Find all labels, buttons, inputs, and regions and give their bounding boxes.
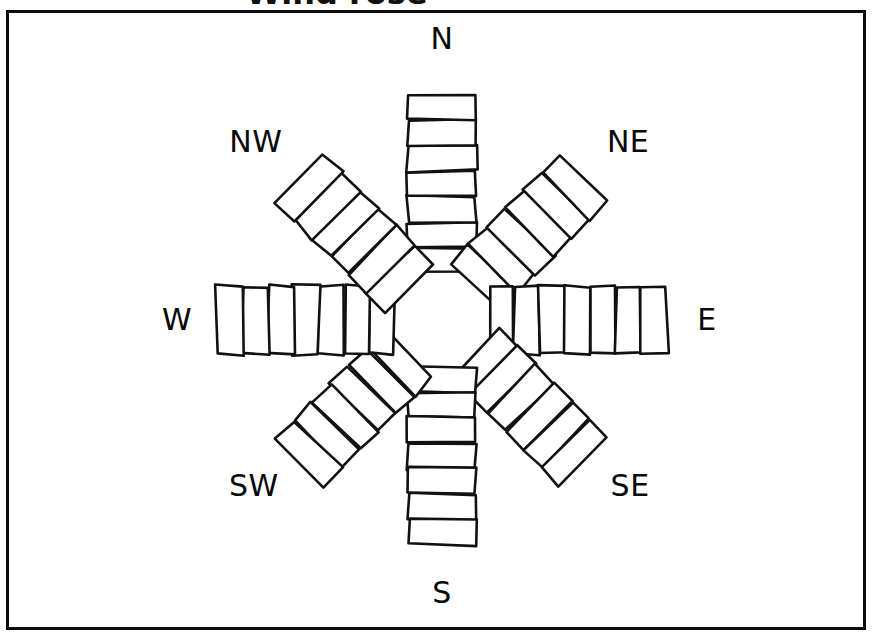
- petal-segment: [409, 519, 477, 547]
- direction-label-e: E: [697, 302, 716, 337]
- direction-label-ne: NE: [607, 124, 649, 159]
- petal-segment: [406, 145, 478, 172]
- petal-segment: [407, 119, 476, 146]
- petal-segment: [615, 287, 641, 353]
- petal-segment: [564, 285, 590, 354]
- direction-label-nw: NW: [229, 124, 282, 159]
- clipped-title-strip: Wind rose: [0, 0, 882, 9]
- petal-segment: [408, 467, 477, 494]
- page-title: Wind rose: [246, 0, 428, 9]
- direction-label-se: SE: [611, 468, 650, 503]
- petal-segment: [591, 286, 616, 354]
- direction-label-n: N: [431, 21, 454, 56]
- wind-rose-chart: NNEESESSWWNW: [0, 0, 882, 641]
- petal-segment: [215, 285, 244, 356]
- petal-segment: [640, 287, 669, 354]
- petal-segment: [408, 493, 477, 521]
- petal-layer: [215, 95, 669, 546]
- direction-label-sw: SW: [229, 468, 279, 503]
- petal-segment: [407, 416, 476, 442]
- direction-label-w: W: [162, 302, 192, 337]
- direction-label-s: S: [432, 575, 452, 610]
- petal-segment: [407, 95, 476, 120]
- petal-segment: [267, 285, 296, 355]
- figure-canvas: NNEESESSWWNW Wind rose: [0, 0, 882, 641]
- petal-segment: [241, 287, 270, 354]
- petal-segment: [406, 171, 476, 196]
- petal-segment: [538, 285, 567, 353]
- petal-segment: [318, 285, 344, 356]
- petal-segment: [406, 195, 476, 223]
